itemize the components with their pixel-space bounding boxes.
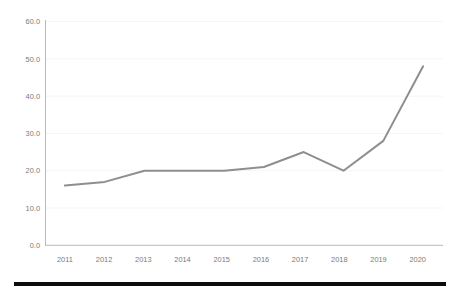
x-tick-label-2017: 2017 xyxy=(292,255,308,264)
y-tick-label-30: 30.0 xyxy=(26,129,40,138)
x-tick-label-2012: 2012 xyxy=(96,255,112,264)
x-tick-label-2015: 2015 xyxy=(213,255,229,264)
chart-canvas: 60.0 50.0 40.0 30.0 20.0 10.0 0.0 2011 2… xyxy=(0,0,460,292)
y-tick-label-10: 10.0 xyxy=(26,204,40,213)
y-tick-label-20: 20.0 xyxy=(26,166,40,175)
x-tick-label-2020: 2020 xyxy=(409,255,425,264)
bottom-rule xyxy=(14,282,446,286)
x-tick-label-2014: 2014 xyxy=(174,255,190,264)
y-tick-label-0: 0.0 xyxy=(30,241,40,250)
x-tick-label-2013: 2013 xyxy=(135,255,151,264)
y-tick-label-60: 60.0 xyxy=(26,17,40,26)
x-tick-label-2018: 2018 xyxy=(331,255,347,264)
y-tick-label-50: 50.0 xyxy=(26,55,40,64)
x-tick-label-2011: 2011 xyxy=(57,255,73,264)
line-chart-figure: 60.0 50.0 40.0 30.0 20.0 10.0 0.0 2011 2… xyxy=(0,0,460,292)
x-tick-label-2019: 2019 xyxy=(370,255,386,264)
chart-background xyxy=(0,0,460,292)
y-tick-label-40: 40.0 xyxy=(26,92,40,101)
x-tick-label-2016: 2016 xyxy=(253,255,269,264)
